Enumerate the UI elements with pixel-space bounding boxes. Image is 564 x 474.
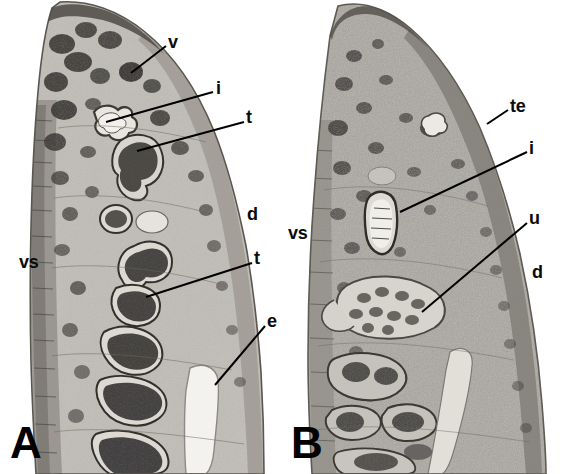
annotation-label-a-e: e — [267, 312, 277, 330]
annotation-label-b-i: i — [529, 139, 534, 157]
excretory-vesicle-a — [185, 365, 219, 474]
panel-b-image — [282, 0, 564, 474]
panel-a — [0, 0, 282, 474]
annotation-label-b-u: u — [529, 209, 540, 227]
annotation-label-a-t2: t — [254, 249, 260, 267]
annotation-label-b-te: te — [510, 97, 526, 115]
panel-letter-a: A — [10, 421, 42, 465]
annotation-label-b-d: d — [532, 263, 543, 281]
annotation-label-a-i: i — [216, 79, 221, 97]
annotation-label-a-d: d — [247, 205, 258, 223]
annotation-label-a-vs: vs — [19, 253, 39, 271]
lumen-upper-b — [421, 113, 447, 136]
intestine-structure-b — [365, 192, 397, 254]
panel-letter-b: B — [291, 421, 323, 465]
annotation-label-b-vs: vs — [288, 224, 308, 242]
panel-a-image — [0, 0, 282, 474]
panel-b — [282, 0, 564, 474]
annotation-label-a-t1: t — [246, 108, 252, 126]
lower-organs-b — [326, 348, 472, 474]
figure-micrograph-pair: vitdvsteteiuvsd AB — [0, 0, 564, 474]
annotation-label-a-v: v — [168, 33, 178, 51]
